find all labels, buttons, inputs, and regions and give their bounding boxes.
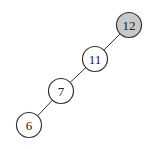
- tree-node-12: 12: [117, 13, 142, 38]
- edge-7-6: [38, 100, 53, 116]
- tree-diagram: 121176: [0, 0, 155, 149]
- tree-node-7: 7: [49, 79, 74, 104]
- tree-nodes: 121176: [17, 13, 142, 138]
- tree-edges: [38, 34, 121, 116]
- edge-11-7: [70, 68, 86, 83]
- node-label: 12: [123, 18, 136, 33]
- node-label: 11: [89, 52, 102, 67]
- node-label: 7: [58, 84, 65, 99]
- tree-node-6: 6: [17, 113, 42, 138]
- edge-12-11: [104, 34, 120, 50]
- node-label: 6: [26, 118, 33, 133]
- tree-node-11: 11: [83, 47, 108, 72]
